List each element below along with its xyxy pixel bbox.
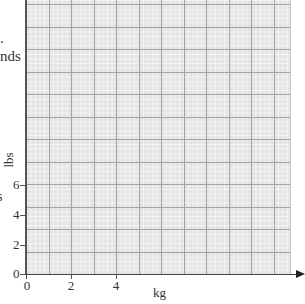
grid-major-vertical	[184, 0, 185, 274]
graph-paper-grid	[26, 0, 291, 274]
grid-major-horizontal	[26, 4, 290, 5]
grid-major-vertical	[94, 0, 95, 274]
y-tick-label: 2	[13, 238, 20, 251]
y-tick-mark	[20, 215, 26, 216]
grid-major-horizontal	[26, 184, 290, 185]
margin-text-fragment-pounds: nds	[0, 48, 21, 65]
y-tick-mark	[20, 185, 26, 186]
margin-text-fragment: s	[0, 189, 2, 205]
grid-major-vertical	[49, 0, 50, 274]
y-tick-label: 6	[13, 178, 20, 191]
grid-major-vertical	[206, 0, 207, 274]
grid-major-horizontal	[26, 252, 290, 253]
x-axis-arrow-icon	[296, 270, 305, 278]
grid-major-vertical	[71, 0, 72, 274]
grid-major-horizontal	[26, 27, 290, 28]
x-axis-title: kg	[153, 285, 166, 301]
margin-text-fragment: .	[0, 30, 4, 47]
grid-major-horizontal	[26, 139, 290, 140]
grid-major-vertical	[161, 0, 162, 274]
grid-major-horizontal	[26, 49, 290, 50]
grid-major-horizontal	[26, 162, 290, 163]
grid-major-horizontal	[26, 229, 290, 230]
x-axis-line	[25, 274, 298, 276]
grid-major-vertical	[116, 0, 117, 274]
grid-major-vertical	[251, 0, 252, 274]
grid-major-horizontal	[26, 72, 290, 73]
x-tick-label: 0	[24, 279, 31, 292]
x-tick-label: 2	[68, 279, 75, 292]
grid-major-vertical	[139, 0, 140, 274]
y-tick-mark	[20, 245, 26, 246]
grid-major-vertical	[229, 0, 230, 274]
y-axis-title: lbs	[1, 152, 17, 167]
x-tick-label: 4	[113, 279, 120, 292]
grid-major-horizontal	[26, 94, 290, 95]
y-axis-line	[25, 0, 27, 275]
y-tick-label: 4	[13, 208, 20, 221]
grid-major-horizontal	[26, 207, 290, 208]
y-tick-label: 0	[13, 267, 20, 280]
grid-major-horizontal	[26, 117, 290, 118]
grid-major-vertical	[274, 0, 275, 274]
